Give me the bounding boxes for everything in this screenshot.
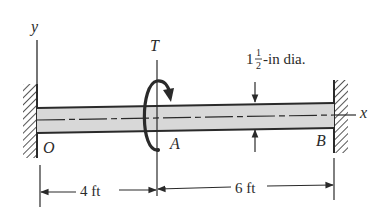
dimension-left-label: 4 ft [80, 183, 101, 199]
diameter-label: 1 1 2 -in dia. [246, 47, 306, 71]
torque-label: T [150, 37, 160, 54]
svg-text:-in dia.: -in dia. [263, 51, 306, 67]
right-fixed-support [334, 80, 348, 153]
svg-text:1: 1 [256, 47, 261, 58]
svg-text:2: 2 [256, 60, 261, 71]
diagram-svg: y T O A B x 1 1 2 -in dia. 4 ft 6 ft [0, 0, 389, 215]
left-fixed-support [23, 84, 37, 158]
y-axis-label: y [29, 18, 39, 36]
point-o-label: O [43, 139, 55, 156]
point-a-label: A [169, 135, 180, 152]
svg-text:1: 1 [246, 51, 254, 67]
shaft-diagram: y T O A B x 1 1 2 -in dia. 4 ft 6 ft [0, 0, 389, 215]
x-axis-label: x [359, 104, 367, 121]
dimension-right-label: 6 ft [235, 180, 256, 196]
point-b-label: B [316, 132, 326, 149]
